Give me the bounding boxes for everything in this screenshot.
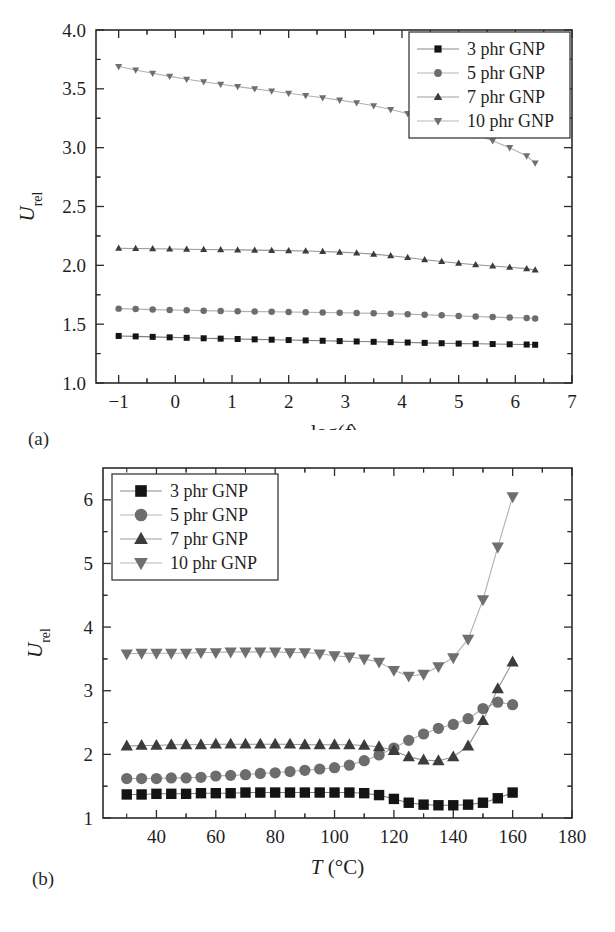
- data-point: [180, 772, 191, 783]
- legend-marker: [135, 509, 148, 522]
- data-point: [320, 338, 326, 344]
- data-point: [344, 760, 355, 771]
- x-tick-label: 100: [320, 826, 349, 847]
- data-point: [115, 305, 121, 311]
- legend: 3 phr GNP5 phr GNP7 phr GNP10 phr GNP: [112, 474, 278, 580]
- data-point: [234, 308, 240, 314]
- data-point: [523, 315, 529, 321]
- data-point: [285, 309, 291, 315]
- series-2: [115, 305, 538, 321]
- data-point: [286, 337, 292, 343]
- data-point: [196, 788, 206, 798]
- data-point: [136, 789, 146, 799]
- data-point: [439, 340, 445, 346]
- data-point: [166, 307, 172, 313]
- chart-panel-b: 406080100120140160180123456T (°C)Urel3 p…: [0, 440, 615, 890]
- data-point: [300, 787, 310, 797]
- data-point: [403, 750, 415, 761]
- data-point: [239, 647, 251, 658]
- data-point: [403, 672, 415, 683]
- data-point: [344, 787, 354, 797]
- data-point: [404, 311, 410, 317]
- panel-label-b: (b): [32, 868, 54, 890]
- data-point: [133, 333, 139, 339]
- data-point: [183, 245, 190, 251]
- data-point: [150, 334, 156, 340]
- data-point: [210, 738, 222, 749]
- data-point: [373, 740, 385, 751]
- data-point: [359, 755, 370, 766]
- data-point: [462, 713, 473, 724]
- data-point: [200, 246, 207, 252]
- y-tick-label: 6: [84, 489, 94, 510]
- y-tick-label: 1.0: [62, 373, 86, 394]
- data-point: [374, 790, 384, 800]
- legend-label: 5 phr GNP: [467, 63, 545, 83]
- data-point: [225, 738, 237, 749]
- data-point: [432, 662, 444, 673]
- data-point: [371, 339, 377, 345]
- data-point: [388, 666, 400, 677]
- x-tick-label: 140: [439, 826, 468, 847]
- data-point: [343, 738, 355, 749]
- svg-text:Urel: Urel: [15, 191, 45, 221]
- data-point: [132, 306, 138, 312]
- data-point: [234, 246, 241, 252]
- data-point: [135, 739, 147, 750]
- y-axis-title: Urel: [15, 191, 45, 221]
- data-point: [299, 765, 310, 776]
- data-point: [405, 340, 411, 346]
- x-tick-label: 80: [266, 826, 285, 847]
- data-point: [136, 773, 147, 784]
- y-axis-title: Urel: [23, 628, 53, 658]
- data-point: [337, 338, 343, 344]
- data-point: [180, 649, 192, 660]
- x-tick-label: 160: [498, 826, 527, 847]
- legend-label: 7 phr GNP: [467, 87, 545, 107]
- legend-marker: [135, 485, 147, 497]
- data-point: [404, 798, 414, 808]
- data-point: [489, 314, 495, 320]
- data-point: [183, 307, 189, 313]
- data-point: [302, 309, 308, 315]
- legend-label: 3 phr GNP: [170, 481, 248, 501]
- y-tick-label: 4: [84, 617, 94, 638]
- data-point: [448, 800, 458, 810]
- y-tick-label: 3.0: [62, 137, 86, 158]
- data-point: [150, 739, 162, 750]
- data-point: [210, 648, 222, 659]
- data-point: [403, 735, 414, 746]
- x-tick-label: 180: [558, 826, 587, 847]
- data-point: [116, 333, 122, 339]
- data-point: [180, 738, 192, 749]
- x-tick-label: 4: [397, 391, 407, 412]
- y-tick-label: 3.5: [62, 78, 86, 99]
- data-point: [493, 793, 503, 803]
- legend-label: 5 phr GNP: [170, 505, 248, 525]
- data-point: [373, 658, 385, 669]
- data-point: [268, 247, 275, 253]
- data-point: [388, 339, 394, 345]
- data-point: [358, 739, 370, 750]
- data-point: [239, 738, 251, 749]
- data-point: [254, 738, 266, 749]
- data-point: [532, 315, 538, 321]
- legend-label: 10 phr GNP: [170, 553, 257, 573]
- data-point: [314, 763, 325, 774]
- series-3: [121, 656, 519, 766]
- data-point: [285, 247, 292, 253]
- data-point: [370, 310, 376, 316]
- data-point: [200, 307, 206, 313]
- legend: 3 phr GNP5 phr GNP7 phr GNP10 phr GNP: [409, 32, 570, 138]
- data-point: [448, 719, 459, 730]
- data-point: [319, 309, 325, 315]
- data-point: [472, 313, 478, 319]
- data-point: [492, 542, 504, 553]
- legend-label: 10 phr GNP: [467, 111, 554, 131]
- y-tick-label: 2: [84, 744, 94, 765]
- data-point: [151, 773, 162, 784]
- data-point: [166, 772, 177, 783]
- data-point: [165, 649, 177, 660]
- data-point: [314, 738, 326, 749]
- figure-container: −1012345671.01.52.02.53.03.54.0log(f)Ure…: [0, 0, 615, 932]
